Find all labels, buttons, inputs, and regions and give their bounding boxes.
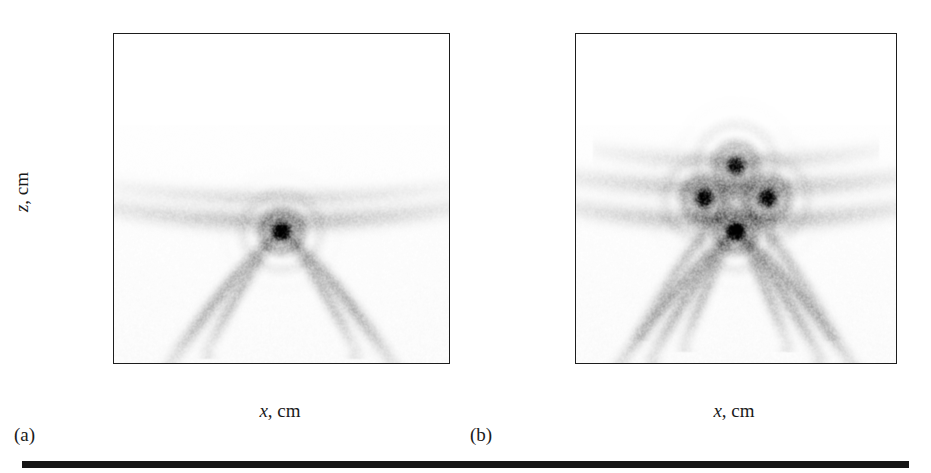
x-tick-mark [282, 363, 283, 364]
heatmap-image-b [576, 34, 896, 363]
x-tick-mark [800, 363, 801, 364]
y-axis-label-a: z, cm [11, 172, 33, 212]
y-tick-mark [575, 100, 576, 101]
x-tick-mark [148, 363, 149, 364]
x-tick-mark [864, 363, 865, 364]
x-axis-label-b: x, cm [713, 400, 754, 422]
y-tick-mark [575, 363, 576, 364]
bottom-divider-rule [22, 461, 909, 468]
x-tick-mark [349, 363, 350, 364]
x-tick-mark [672, 363, 673, 364]
plot-area-a: 020406080100−40−2002040 [113, 33, 450, 364]
panel-a: 020406080100−40−2002040 z, cm x, cm (a) [0, 0, 466, 473]
y-tick-mark [113, 297, 114, 298]
x-tick-mark [608, 363, 609, 364]
y-tick-mark [575, 297, 576, 298]
panel-b: 020406080100−40−2002040 z, cm x, cm (b) [462, 0, 931, 473]
y-tick-mark [113, 363, 114, 364]
heatmap-image-a [114, 34, 449, 363]
x-tick-mark [736, 363, 737, 364]
y-tick-mark [113, 34, 114, 35]
y-tick-mark [575, 34, 576, 35]
y-tick-mark [113, 231, 114, 232]
y-tick-mark [113, 100, 114, 101]
plot-area-b: 020406080100−40−2002040 [575, 33, 897, 364]
x-tick-mark [416, 363, 417, 364]
panel-label-b: (b) [470, 424, 492, 446]
figure: 020406080100−40−2002040 z, cm x, cm (a) … [0, 0, 931, 473]
y-tick-mark [575, 166, 576, 167]
x-tick-mark [215, 363, 216, 364]
y-tick-mark [113, 166, 114, 167]
panel-label-a: (a) [14, 424, 35, 446]
y-tick-mark [575, 231, 576, 232]
x-axis-label-a: x, cm [259, 400, 300, 422]
